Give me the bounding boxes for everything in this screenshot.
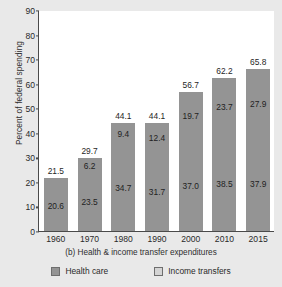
bar-value-income-transfers: 34.7: [115, 183, 131, 193]
bar-2000: 19.737.056.72000: [179, 92, 203, 231]
y-axis-tick-mark: [36, 35, 39, 36]
bar-segment-health-care: 19.7: [179, 92, 203, 140]
bar-value-health-care: 9.4: [117, 129, 129, 139]
bar-segment-income-transfers: 38.5: [212, 136, 236, 231]
y-axis-tick-label: 40: [25, 129, 35, 139]
bar-value-health-care: 12.4: [149, 133, 165, 143]
legend-item-health-care: Health care: [51, 266, 108, 276]
bar-1970: 6.223.529.71970: [78, 158, 102, 231]
x-axis-tick-label: 1980: [114, 234, 133, 244]
bar-2010: 23.738.562.22010: [212, 78, 236, 231]
bar-value-income-transfers: 38.5: [216, 179, 232, 189]
y-axis-tick-mark: [36, 84, 39, 85]
y-axis-tick-mark: [36, 133, 39, 134]
y-axis-tick-mark: [36, 60, 39, 61]
bar-value-income-transfers: 37.9: [250, 179, 266, 189]
y-axis-tick-label: 60: [25, 80, 35, 90]
x-axis-tick-label: 2000: [181, 234, 200, 244]
bar-segment-income-transfers: 20.6: [44, 180, 68, 231]
plot-inner: 01020304050607080900.920.621.519606.223.…: [39, 11, 274, 231]
bar-segment-health-care: 9.4: [111, 123, 135, 146]
bar-segment-health-care: 12.4: [145, 123, 169, 153]
bar-segment-income-transfers: 34.7: [111, 146, 135, 231]
x-axis-tick-label: 1990: [147, 234, 166, 244]
y-axis-tick-label: 70: [25, 55, 35, 65]
figure-caption: (b) Health & income transfer expenditure…: [0, 248, 282, 257]
y-axis-tick-label: 30: [25, 153, 35, 163]
bar-total-label: 44.1: [149, 111, 165, 121]
y-axis-tick-mark: [36, 231, 39, 232]
y-axis-tick-label: 10: [25, 202, 35, 212]
y-axis-tick-mark: [36, 182, 39, 183]
y-axis-tick-label: 20: [25, 178, 35, 188]
legend-swatch-income-transfers: [154, 267, 163, 276]
chart-figure: Percent of federal spending 010203040506…: [0, 0, 282, 287]
bar-segment-health-care: 6.2: [78, 158, 102, 173]
legend-label-income-transfers: Income transfers: [168, 266, 230, 276]
bar-total-label: 62.2: [216, 66, 232, 76]
bar-segment-income-transfers: 31.7: [145, 153, 169, 231]
y-axis-tick-label: 0: [30, 227, 35, 237]
x-axis-tick-label: 2010: [215, 234, 234, 244]
bar-value-health-care: 6.2: [84, 161, 96, 171]
y-axis-tick-mark: [36, 10, 39, 11]
legend-swatch-health-care: [51, 267, 60, 276]
bar-value-income-transfers: 23.5: [81, 197, 97, 207]
legend-item-income-transfers: Income transfers: [154, 266, 230, 276]
bar-value-health-care: 19.7: [183, 111, 199, 121]
y-axis-label: Percent of federal spending: [14, 7, 24, 179]
y-axis-tick-label: 50: [25, 104, 35, 114]
chart-legend: Health care Income transfers: [0, 266, 282, 276]
bar-value-income-transfers: 20.6: [48, 201, 64, 211]
bar-value-income-transfers: 31.7: [149, 187, 165, 197]
bar-value-income-transfers: 37.0: [183, 181, 199, 191]
bar-segment-income-transfers: 37.0: [179, 140, 203, 231]
x-axis-tick-label: 1960: [46, 234, 65, 244]
y-axis-tick-mark: [36, 109, 39, 110]
bar-total-label: 44.1: [115, 111, 131, 121]
bar-1990: 12.431.744.11990: [145, 123, 169, 231]
y-axis-tick-label: 90: [25, 6, 35, 16]
bar-segment-income-transfers: 23.5: [78, 173, 102, 231]
bar-total-label: 29.7: [81, 146, 97, 156]
bar-total-label: 21.5: [48, 166, 64, 176]
plot-area: 01020304050607080900.920.621.519606.223.…: [38, 11, 274, 232]
bar-value-health-care: 23.7: [216, 102, 232, 112]
x-axis-tick-label: 1970: [80, 234, 99, 244]
bar-total-label: 65.8: [250, 57, 266, 67]
bar-1980: 9.434.744.11980: [111, 123, 135, 231]
y-axis-tick-mark: [36, 158, 39, 159]
legend-label-health-care: Health care: [65, 266, 108, 276]
y-axis-tick-label: 80: [25, 31, 35, 41]
bar-segment-health-care: 27.9: [246, 69, 270, 138]
bar-segment-income-transfers: 37.9: [246, 138, 270, 231]
y-axis-tick-mark: [36, 207, 39, 208]
bar-1960: 0.920.621.51960: [44, 178, 68, 231]
x-axis-tick-label: 2015: [249, 234, 268, 244]
bar-total-label: 56.7: [183, 80, 199, 90]
bar-segment-health-care: 23.7: [212, 78, 236, 136]
bar-value-health-care: 27.9: [250, 99, 266, 109]
bar-2015: 27.937.965.82015: [246, 69, 270, 231]
